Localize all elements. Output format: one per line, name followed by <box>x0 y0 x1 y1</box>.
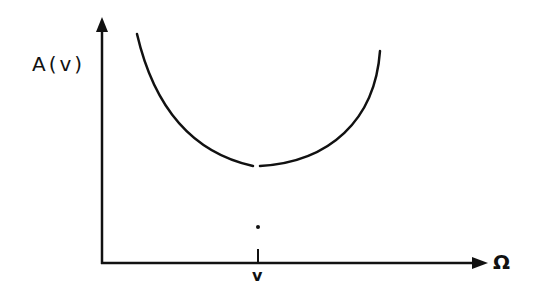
y-axis-arrow-icon <box>96 17 108 32</box>
x-axis-label: Ω <box>493 250 510 274</box>
x-tick-label: v <box>252 266 262 285</box>
curve-left <box>137 34 253 166</box>
diagram-canvas <box>0 0 537 296</box>
curve-right <box>260 51 380 166</box>
y-axis-label: A(v) <box>32 52 85 76</box>
x-axis <box>101 257 488 269</box>
y-axis <box>96 17 108 264</box>
x-axis-arrow-icon <box>472 257 488 269</box>
marker-dot <box>256 225 260 229</box>
